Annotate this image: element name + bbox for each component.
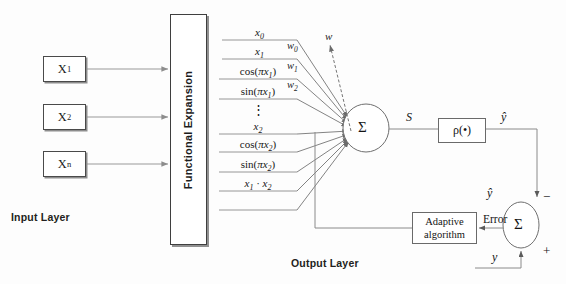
error-label: Error xyxy=(483,213,507,225)
expansion-term-vertical-dots: ⋮ xyxy=(219,104,297,116)
output-layer-label: Output Layer xyxy=(291,257,359,269)
desired-output-path xyxy=(475,251,521,268)
adaptive-algorithm-box[interactable] xyxy=(412,212,477,244)
input-box-xn-label: Xn xyxy=(43,151,86,177)
net-input-label: S xyxy=(406,110,412,125)
expansion-term-sin-pi-x1: sin(πx1) xyxy=(219,85,297,100)
input-box-x2-label: X2 xyxy=(43,104,86,130)
expansion-term-sin-pi-x2: sin(πx2) xyxy=(219,158,297,173)
expansion-term-cos-pi-x1: cos(πx1) xyxy=(219,65,297,80)
input-box-x1-label: X1 xyxy=(43,56,86,82)
weight-label-w1: w1 xyxy=(287,60,298,74)
expansion-term-x2: x2 xyxy=(219,120,297,135)
weighted-connection-lines xyxy=(297,40,349,210)
weight-label-w2: w2 xyxy=(287,79,298,93)
weight-label-w0: w0 xyxy=(287,40,298,54)
functional-expansion-block[interactable] xyxy=(170,14,207,245)
predicted-output-feedback-label: ŷ xyxy=(487,186,492,201)
input-to-expansion-arrows xyxy=(87,69,168,164)
summation-node xyxy=(343,104,389,152)
expansion-term-x1: x1 xyxy=(222,45,297,60)
minus-sign-label: − xyxy=(543,189,550,205)
activation-function-box[interactable] xyxy=(438,118,486,143)
predicted-output-label: ŷ xyxy=(501,110,506,125)
predicted-output-path xyxy=(486,129,537,197)
desired-output-label: y xyxy=(492,250,497,265)
input-layer-label: Input Layer xyxy=(11,211,70,223)
diagram-canvas: X1 X2 Xn Functional Expansion x0 x1 cos(… xyxy=(0,0,566,284)
expansion-term-cos-pi-x2: cos(πx2) xyxy=(219,138,297,153)
expansion-term-x1-dot-x2: x1 · x2 xyxy=(219,177,297,192)
expansion-term-x0: x0 xyxy=(222,26,297,41)
weight-update-label: w xyxy=(325,30,332,42)
plus-sign-label: + xyxy=(543,243,550,259)
error-summation-node xyxy=(503,202,539,248)
